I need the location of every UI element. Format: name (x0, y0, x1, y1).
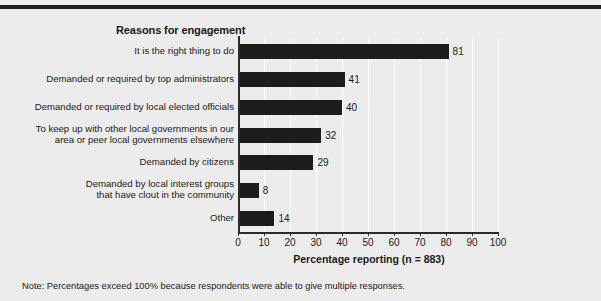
bar-value-label: 40 (346, 102, 357, 113)
bar-value-label: 81 (453, 46, 464, 57)
tick-mark-20 (290, 232, 291, 236)
y-axis-line (238, 36, 240, 234)
plot-area: 8141403229814 (238, 38, 498, 232)
bar (238, 44, 449, 59)
bar (238, 128, 321, 143)
tick-mark-0 (238, 232, 239, 236)
x-axis-title: Percentage reporting (n = 883) (238, 253, 500, 265)
bar-value-label: 8 (263, 185, 269, 196)
tick-mark-50 (368, 232, 369, 236)
tick-label-10: 10 (258, 237, 269, 248)
tick-mark-70 (420, 232, 421, 236)
tick-label-60: 60 (388, 237, 399, 248)
category-label: Demanded or required by local elected of… (14, 101, 234, 112)
gridline-60 (394, 38, 395, 232)
category-label: It is the right thing to do (14, 45, 234, 56)
tick-label-20: 20 (284, 237, 295, 248)
chart-title: Reasons for engagement (116, 24, 245, 36)
bar-value-label: 29 (317, 157, 328, 168)
bar (238, 100, 342, 115)
gridline-90 (472, 38, 473, 232)
category-labels: It is the right thing to doDemanded or r… (10, 38, 234, 232)
figure-note: Note: Percentages exceed 100% because re… (22, 281, 405, 291)
category-label: To keep up with other local governments … (14, 123, 234, 145)
gridline-40 (342, 38, 343, 232)
tick-label-80: 80 (440, 237, 451, 248)
category-label: Other (14, 212, 234, 223)
tick-mark-60 (394, 232, 395, 236)
category-label: Demanded by citizens (14, 156, 234, 167)
category-label: Demanded by local interest groups that h… (14, 178, 234, 200)
bar (238, 155, 313, 170)
tick-label-0: 0 (235, 237, 241, 248)
bar (238, 72, 345, 87)
tick-mark-10 (264, 232, 265, 236)
tick-label-50: 50 (362, 237, 373, 248)
tick-mark-100 (498, 232, 499, 236)
bar-value-label: 14 (278, 213, 289, 224)
tick-label-70: 70 (414, 237, 425, 248)
tick-label-40: 40 (336, 237, 347, 248)
bar-value-label: 32 (325, 130, 336, 141)
figure-container: Reasons for engagement 8141403229814 010… (0, 0, 601, 301)
tick-label-100: 100 (490, 237, 507, 248)
tick-mark-80 (446, 232, 447, 236)
tick-mark-40 (342, 232, 343, 236)
tick-label-90: 90 (466, 237, 477, 248)
tick-mark-30 (316, 232, 317, 236)
bar (238, 211, 274, 226)
gridline-100 (498, 38, 499, 232)
gridline-80 (446, 38, 447, 232)
tick-label-30: 30 (310, 237, 321, 248)
gridline-70 (420, 38, 421, 232)
tick-mark-90 (472, 232, 473, 236)
bar-value-label: 41 (349, 74, 360, 85)
bar (238, 183, 259, 198)
category-label: Demanded or required by top administrato… (14, 73, 234, 84)
gridline-50 (368, 38, 369, 232)
